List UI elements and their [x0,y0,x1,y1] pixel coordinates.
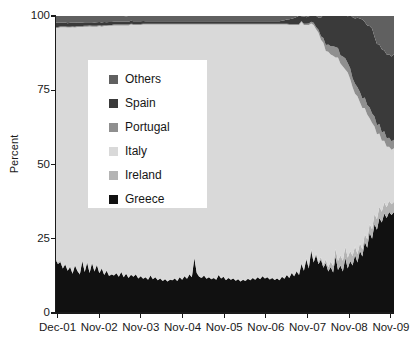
legend-item-ireland[interactable]: Ireland [109,168,162,182]
legend-swatch-icon [109,123,118,132]
legend-swatch-icon [109,147,118,156]
legend-item-greece[interactable]: Greece [109,192,164,206]
legend-item-italy[interactable]: Italy [109,144,147,158]
legend-label: Others [125,73,161,85]
legend-item-spain[interactable]: Spain [109,96,156,110]
legend-item-portugal[interactable]: Portugal [109,120,170,134]
chart-legend: OthersSpainPortugalItalyIrelandGreece [88,60,207,208]
legend-item-others[interactable]: Others [109,72,161,86]
legend-swatch-icon [109,99,118,108]
legend-label: Greece [125,193,164,205]
legend-label: Spain [125,97,156,109]
y-axis-title: Percent [8,124,20,184]
legend-label: Italy [125,145,147,157]
x-tick-label: Nov-09 [361,322,414,334]
legend-swatch-icon [109,195,118,204]
legend-swatch-icon [109,171,118,180]
legend-label: Ireland [125,169,162,181]
legend-swatch-icon [109,75,118,84]
legend-label: Portugal [125,121,170,133]
